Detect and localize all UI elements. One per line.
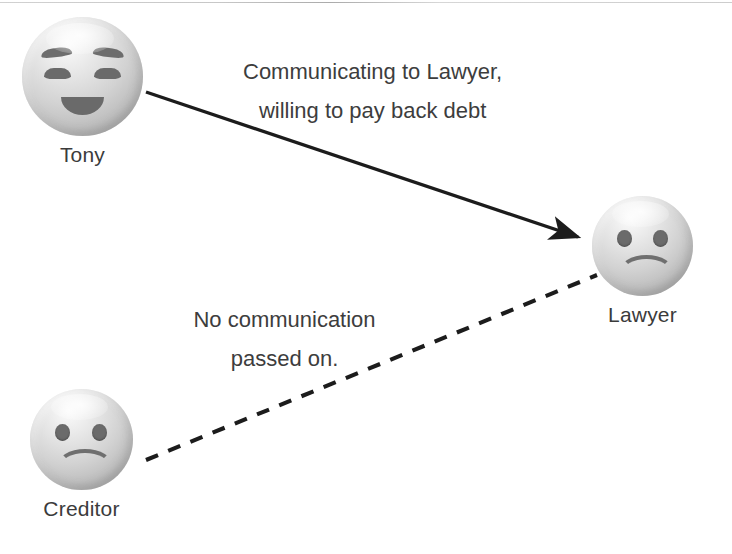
edge-label-line-2: willing to pay back debt	[243, 91, 502, 130]
eyebrow-left-icon	[41, 46, 73, 59]
eye-right-icon	[653, 230, 668, 247]
eye-right-icon	[92, 424, 107, 441]
mouth-frown-icon	[57, 449, 113, 483]
smiling-face-icon	[22, 17, 143, 136]
mouth-frown-icon	[619, 255, 674, 289]
eyebrow-right-icon	[93, 46, 125, 59]
node-lawyer[interactable]: Lawyer	[592, 196, 693, 296]
frowning-face-icon	[592, 196, 693, 296]
node-label-tony: Tony	[22, 143, 143, 167]
edge-label-line-1: No communication	[172, 300, 397, 339]
node-creditor[interactable]: Creditor	[30, 389, 133, 490]
eye-left-icon	[55, 424, 70, 441]
eye-left-icon	[617, 230, 632, 247]
edge-label-tony-to-lawyer: Communicating to Lawyer, willing to pay …	[243, 52, 502, 130]
node-tony[interactable]: Tony	[22, 17, 143, 136]
frowning-face-icon	[30, 389, 133, 490]
mouth-smile-icon	[61, 97, 104, 115]
node-label-lawyer: Lawyer	[592, 303, 693, 327]
diagram-canvas: Tony Lawyer Creditor Communicating to La…	[0, 0, 732, 554]
eye-left-icon	[44, 68, 71, 79]
eye-right-icon	[94, 68, 121, 79]
edge-label-line-1: Communicating to Lawyer,	[243, 52, 502, 91]
node-label-creditor: Creditor	[30, 497, 133, 521]
edge-label-line-2: passed on.	[172, 339, 397, 378]
edge-label-creditor-to-lawyer: No communication passed on.	[172, 300, 397, 378]
